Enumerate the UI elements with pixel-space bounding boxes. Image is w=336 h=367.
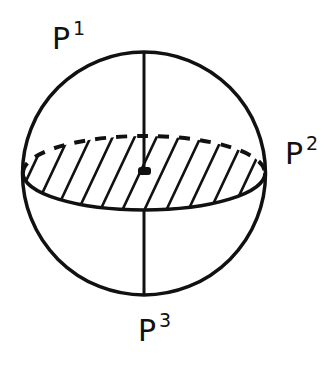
label-p3: P3 — [138, 316, 171, 346]
label-p2-superscript: 2 — [306, 132, 318, 154]
center-point — [138, 167, 151, 175]
label-p2-base: P — [285, 136, 303, 171]
label-p1: P1 — [52, 24, 85, 54]
equator-front-edge — [23, 173, 265, 210]
equatorial-hatching — [10, 130, 292, 215]
label-p3-base: P — [138, 313, 156, 348]
label-p1-superscript: 1 — [73, 17, 85, 39]
label-p1-base: P — [52, 21, 70, 56]
label-p2: P2 — [285, 139, 318, 169]
label-p3-superscript: 3 — [159, 309, 171, 331]
